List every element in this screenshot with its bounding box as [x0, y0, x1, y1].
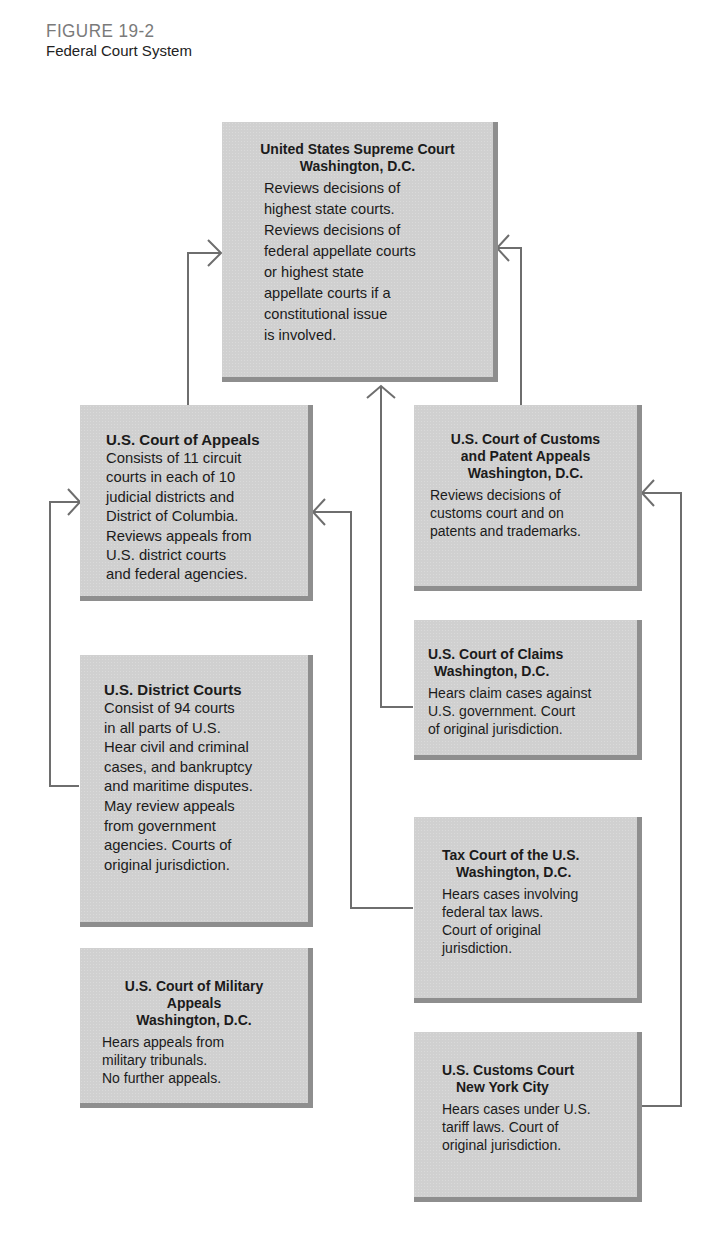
customs-patent-description: Reviews decisions of customs court and o… — [430, 486, 631, 540]
customs-court-title: U.S. Customs Court — [442, 1062, 631, 1079]
arrowhead-icon — [642, 480, 654, 506]
customs-patent-title: U.S. Court of Customs and Patent Appeals… — [430, 431, 631, 482]
box-customs-court: U.S. Customs Court New York City Hears c… — [414, 1032, 642, 1202]
arrowhead-icon — [497, 235, 509, 261]
tax-title: Tax Court of the U.S. — [442, 847, 631, 864]
connector-customs-court-to-customs-patent — [641, 493, 681, 1106]
connector-customs-patent-to-supreme — [497, 248, 521, 405]
supreme-description: Reviews decisions of highest state court… — [232, 178, 483, 346]
connector-tax-to-appeals — [313, 512, 413, 908]
box-district-courts: U.S. District Courts Consist of 94 court… — [80, 655, 313, 927]
figure-label: FIGURE 19-2 — [46, 20, 155, 42]
supreme-title: United States Supreme Court — [232, 141, 483, 158]
military-title: U.S. Court of Military Appeals Washingto… — [102, 978, 302, 1029]
military-description: Hears appeals from military tribunals. N… — [102, 1033, 302, 1087]
customs-court-location: New York City — [442, 1079, 631, 1096]
claims-location: Washington, D.C. — [428, 663, 631, 680]
box-military-appeals: U.S. Court of Military Appeals Washingto… — [80, 948, 313, 1108]
box-supreme-court: United States Supreme Court Washington, … — [222, 122, 498, 382]
tax-description: Hears cases involving federal tax laws. … — [442, 885, 631, 957]
connector-district-to-appeals — [50, 502, 79, 786]
box-court-of-appeals: U.S. Court of Appeals Consists of 11 cir… — [80, 405, 313, 601]
arrowhead-icon — [68, 489, 80, 515]
tax-location: Washington, D.C. — [442, 864, 631, 881]
box-tax-court: Tax Court of the U.S. Washington, D.C. H… — [414, 817, 642, 1003]
appeals-description: Consists of 11 circuit courts in each of… — [106, 449, 300, 585]
connector-appeals-to-supreme — [188, 253, 221, 405]
box-customs-patent-appeals: U.S. Court of Customs and Patent Appeals… — [414, 405, 642, 591]
claims-title: U.S. Court of Claims — [428, 646, 631, 663]
appeals-title: U.S. Court of Appeals — [106, 431, 300, 448]
connector-claims-to-supreme — [381, 386, 413, 707]
customs-court-description: Hears cases under U.S. tariff laws. Cour… — [442, 1100, 631, 1154]
district-description: Consist of 94 courts in all parts of U.S… — [104, 699, 300, 875]
supreme-location: Washington, D.C. — [232, 158, 483, 175]
box-court-of-claims: U.S. Court of Claims Washington, D.C. He… — [414, 620, 642, 760]
arrowhead-icon — [367, 386, 395, 398]
arrowhead-icon — [208, 240, 221, 266]
figure-title: Federal Court System — [46, 42, 192, 59]
arrowhead-icon — [313, 499, 325, 525]
district-title: U.S. District Courts — [104, 681, 300, 698]
claims-description: Hears claim cases against U.S. governmen… — [428, 684, 631, 738]
